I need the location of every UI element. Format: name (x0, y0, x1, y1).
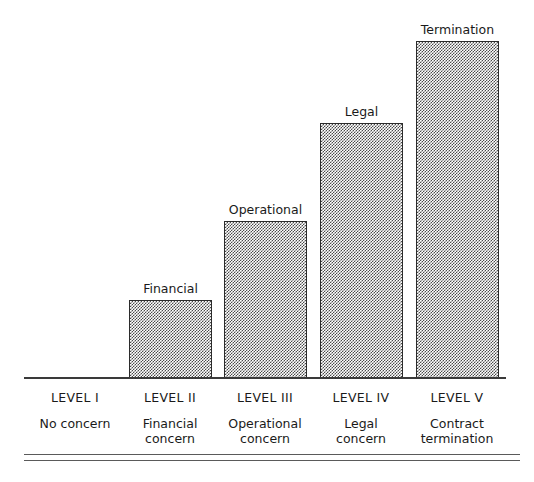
bar-label-level-2: Financial (129, 282, 212, 296)
tick-desc-level-5: Contract termination (397, 416, 517, 446)
bar-level-2 (129, 300, 212, 378)
bar-level-4 (320, 123, 403, 378)
tick-desc-level-3-line2: concern (240, 431, 290, 446)
bar-chart-figure: Financial Operational Legal Termination … (0, 0, 534, 482)
tick-desc-level-2-line1: Financial (143, 416, 198, 431)
bar-label-level-4: Legal (320, 105, 403, 119)
plot-area: Financial Operational Legal Termination (0, 0, 534, 482)
tick-desc-level-4-line1: Legal (344, 416, 378, 431)
tick-desc-level-3-line1: Operational (228, 416, 301, 431)
bar-label-level-5: Termination (406, 23, 509, 37)
tick-desc-level-1-line1: No concern (40, 416, 111, 431)
bar-level-3 (224, 221, 307, 378)
tick-desc-level-4-line2: concern (336, 431, 386, 446)
tick-desc-level-5-line1: Contract (430, 416, 484, 431)
tick-desc-level-5-line2: termination (421, 431, 494, 446)
bar-label-level-3: Operational (214, 203, 317, 217)
tick-label-level-5: LEVEL V (397, 390, 517, 405)
bar-level-5 (416, 41, 499, 378)
bottom-double-rule (24, 454, 520, 461)
tick-desc-level-2-line2: concern (145, 431, 195, 446)
x-axis-line (24, 377, 506, 379)
